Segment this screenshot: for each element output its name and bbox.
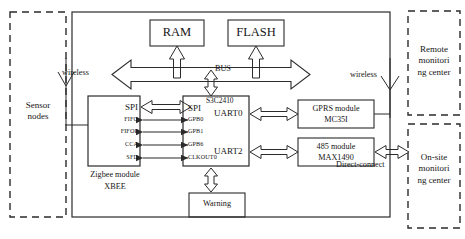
direct-connect-label: Direct-connect — [336, 160, 412, 169]
wireless-left-label: wireless — [62, 68, 116, 77]
diagram-canvas: RAM FLASH BUS S3C2410 SPI GPB0 GPB1 GPB6… — [0, 0, 465, 239]
bus-to-flash-arrow — [249, 46, 264, 78]
bus-arrow-shape — [112, 60, 310, 89]
zigbee-pin-sfd: SFD — [104, 154, 138, 161]
rs485-onsite-arrow — [375, 146, 409, 159]
zigbee-caption-line2: XBEE — [76, 182, 154, 191]
zigbee-port-spi: SPI — [110, 102, 138, 112]
mcu-pin-gpb1: GPB1 — [188, 128, 216, 135]
gprs-label-line1: GPRS module — [298, 104, 374, 113]
gprs-label-line2: MC35I — [298, 115, 374, 124]
uart0-gprs-arrow — [250, 108, 298, 121]
mcu-port-uart2: UART2 — [214, 146, 250, 156]
mcu-pin-gpb6: GPB6 — [188, 141, 216, 148]
mcu-to-warning-arrow — [205, 168, 218, 192]
zigbee-pin-fifo: FIFO — [104, 116, 138, 123]
remote-center-label: Remote monitori ng center — [408, 44, 460, 78]
bus-label: BUS — [215, 64, 249, 73]
mcu-port-spi: SPI — [188, 103, 214, 113]
onsite-center-label: On-site monitori ng center — [408, 152, 460, 186]
warning-label: Warning — [189, 199, 245, 208]
rs485-label-line1: 485 module — [298, 142, 374, 151]
zigbee-pin-cca: CCA — [104, 141, 138, 148]
bus-to-ram-arrow — [170, 46, 185, 78]
zigbee-pin-fifop: FIFOP — [104, 128, 138, 135]
bus-to-mcu-arrow — [205, 70, 218, 96]
mcu-pin-gpb0: GPB0 — [188, 116, 216, 123]
mcu-port-uart0: UART0 — [214, 108, 250, 118]
wireless-right-label: wireless — [350, 70, 402, 79]
flash-label: FLASH — [228, 25, 284, 39]
zigbee-caption-line1: Zigbee module — [76, 170, 154, 179]
sensor-nodes-label: Sensor nodes — [10, 100, 66, 123]
ram-label: RAM — [150, 25, 204, 39]
uart2-rs485-arrow — [250, 146, 298, 159]
